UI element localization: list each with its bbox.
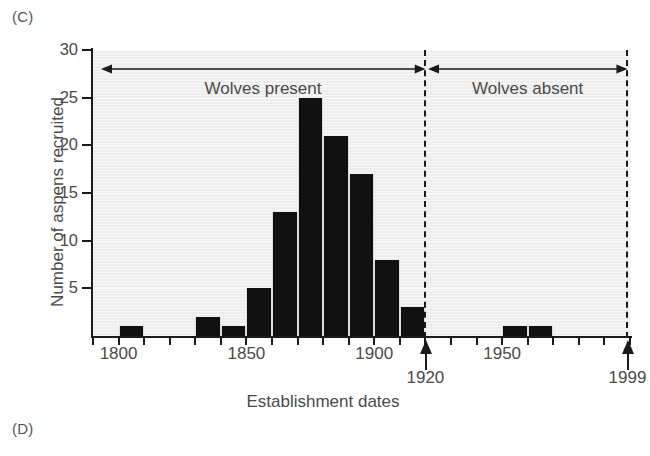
figure-panel-c: (C) 510152025301800185019001950Wolves pr… (0, 0, 650, 410)
bar (400, 307, 426, 336)
bar (528, 326, 554, 336)
x-axis-tick (169, 338, 171, 345)
bar (119, 326, 145, 336)
plot-gridline (93, 145, 630, 146)
bar (272, 212, 298, 336)
x-axis-tick-label: 1850 (228, 344, 266, 364)
panel-letter-c: (C) (12, 8, 33, 25)
wolves-present-label: Wolves present (205, 79, 322, 99)
x-axis-tick (399, 338, 401, 345)
bar (246, 288, 272, 336)
year-1999-callout-label: 1999 (609, 368, 647, 388)
wolves-present-arrow (101, 62, 426, 74)
x-axis-tick (450, 338, 452, 345)
x-axis-tick (322, 338, 324, 345)
x-axis-tick (578, 338, 580, 345)
bar (298, 98, 324, 336)
bar (323, 136, 349, 336)
x-axis-tick-label: 1900 (355, 344, 393, 364)
x-axis-tick (220, 338, 222, 345)
x-axis-title: Establishment dates (93, 392, 553, 412)
y-axis-tick (82, 240, 92, 242)
x-axis-tick (348, 338, 350, 345)
plot-gridline (93, 50, 630, 51)
x-axis-tick (194, 338, 196, 345)
bar (349, 174, 375, 336)
y-axis-title: Number of aspens recruited (48, 52, 68, 352)
y-axis-tick (82, 144, 92, 146)
x-axis-tick (92, 338, 94, 345)
x-axis-tick-label: 1950 (483, 344, 521, 364)
bar (195, 317, 221, 336)
x-axis-tick (476, 338, 478, 345)
x-axis-tick (603, 338, 605, 345)
bar (221, 326, 247, 336)
x-axis-tick (552, 338, 554, 345)
x-axis-tick (527, 338, 529, 345)
year-1920-callout-arrow (418, 340, 432, 370)
year-1999-callout-arrow (620, 340, 634, 370)
x-axis-tick (143, 338, 145, 345)
x-axis-tick-label: 1800 (100, 344, 138, 364)
divider-line-1999 (626, 50, 628, 338)
divider-line-1920 (424, 50, 426, 338)
y-axis-tick (82, 192, 92, 194)
x-axis-tick (297, 338, 299, 345)
year-1920-callout-label: 1920 (407, 368, 445, 388)
x-axis-line (91, 336, 632, 338)
wolves-absent-label: Wolves absent (472, 79, 583, 99)
x-axis-tick (271, 338, 273, 345)
bar (502, 326, 528, 336)
y-axis-tick (82, 287, 92, 289)
wolves-absent-arrow (428, 62, 627, 74)
y-axis-tick (82, 97, 92, 99)
panel-letter-d: (D) (12, 420, 33, 437)
y-axis-tick (82, 49, 92, 51)
bar (374, 260, 400, 336)
